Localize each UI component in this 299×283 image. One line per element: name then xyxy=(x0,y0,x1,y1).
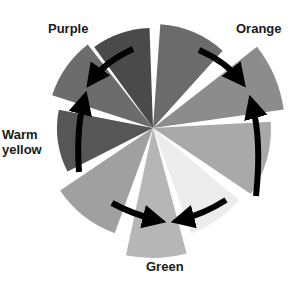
label-purple: Purple xyxy=(48,21,88,36)
color-wheel-diagram xyxy=(0,0,299,283)
label-green: Green xyxy=(146,259,184,274)
wedges-group xyxy=(52,24,284,258)
label-warm-yellow: Warm yellow xyxy=(2,127,42,157)
label-orange: Orange xyxy=(236,21,282,36)
